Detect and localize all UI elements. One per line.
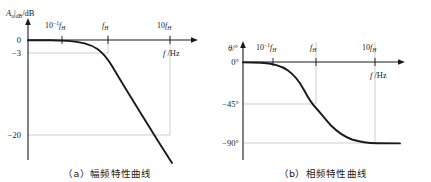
panel-magnitude-response: Au|dB/dB f /Hz 10−1fH fH 10fH 0 −3 −20 （… <box>0 0 215 182</box>
x-axis-label-magnitude: f /Hz <box>163 48 180 58</box>
y-tick-label-2: −90° <box>222 138 239 148</box>
magnitude-plot-svg: Au|dB/dB f /Hz 10−1fH fH 10fH 0 −3 −20 <box>0 0 215 182</box>
y-tick-label-1: −45° <box>222 99 239 109</box>
y-tick-label-1: −3 <box>12 48 21 58</box>
y-axis-label-magnitude: Au|dB/dB <box>5 8 35 19</box>
y-axis-arrow-phase <box>240 41 246 48</box>
y-axis-arrow-magnitude <box>25 18 31 25</box>
panel-phase-response: θ/° f /Hz 10−1fH fH 10fH 0° −45° −90° （b… <box>215 0 431 182</box>
phase-plot-svg: θ/° f /Hz 10−1fH fH 10fH 0° −45° −90° <box>215 0 431 182</box>
x-tick-label-2: 10fH <box>157 21 172 31</box>
x-axis-arrow-phase <box>398 59 405 65</box>
y-tick-label-0: 0° <box>231 57 239 67</box>
caption-phase: （b）相频特性曲线 <box>215 166 431 180</box>
guide-lines-phase <box>243 42 400 143</box>
x-axis-arrow-magnitude <box>191 37 198 43</box>
x-tick-label-1: fH <box>102 21 109 31</box>
caption-magnitude: （a）幅频特性曲线 <box>0 166 215 180</box>
y-tick-label-0: 0 <box>17 35 21 45</box>
x-tick-label-0: 10−1fH <box>256 42 277 53</box>
magnitude-response-curve <box>28 40 172 163</box>
y-tick-label-2: −20 <box>8 130 21 140</box>
x-tick-label-0: 10−1fH <box>45 20 66 31</box>
bode-plot-figure-pair: Au|dB/dB f /Hz 10−1fH fH 10fH 0 −3 −20 （… <box>0 0 431 182</box>
x-axis-label-phase: f /Hz <box>370 70 387 80</box>
y-axis-label-phase: θ/° <box>228 43 238 53</box>
